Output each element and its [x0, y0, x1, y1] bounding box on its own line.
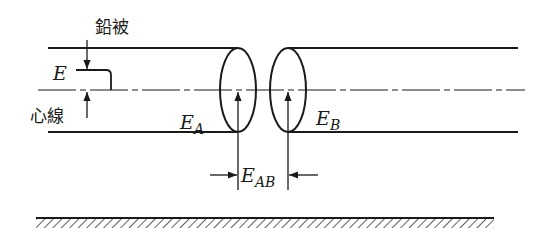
- sheath-label: 鉛被: [95, 17, 129, 37]
- eab-label: EAB: [240, 164, 275, 190]
- core-label: 心線: [30, 106, 64, 126]
- potential-step-line: [76, 70, 111, 90]
- e-label: E: [52, 62, 67, 84]
- ea-label: EA: [179, 111, 204, 137]
- ground-plane: [36, 218, 494, 228]
- eb-label: EB: [315, 107, 340, 133]
- cable-joint-diagram: 鉛被 心線 E EA EB EAB: [0, 0, 553, 247]
